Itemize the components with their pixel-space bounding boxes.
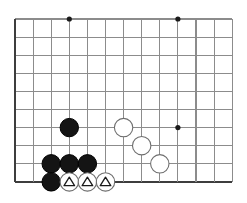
white-stone-c6-r6 <box>114 118 132 136</box>
black-stone-disc <box>42 155 60 173</box>
white-stone-disc <box>78 173 96 191</box>
white-stone-disc <box>96 173 114 191</box>
white-stone-disc <box>151 155 169 173</box>
white-stone-c8-r8 <box>151 155 169 173</box>
goban-canvas <box>0 0 247 203</box>
black-stone-c2-r9 <box>42 173 60 191</box>
black-stone-disc <box>78 155 96 173</box>
black-stone-c3-r8 <box>60 155 78 173</box>
black-stone-disc <box>42 173 60 191</box>
black-stone-c4-r8 <box>78 155 96 173</box>
white-stone-c7-r7 <box>133 137 151 155</box>
white-stone-triangle-c4-r9 <box>78 173 96 191</box>
white-stone-triangle-c5-r9 <box>96 173 114 191</box>
white-stone-disc <box>60 173 78 191</box>
star-point-bottom-right <box>175 125 180 130</box>
white-stone-triangle-c3-r9 <box>60 173 78 191</box>
star-point-top-left <box>67 16 72 21</box>
black-stone-c3-r6 <box>60 118 78 136</box>
white-stone-disc <box>114 118 132 136</box>
black-stone-disc <box>60 155 78 173</box>
black-stone-disc <box>60 118 78 136</box>
black-stone-c2-r8 <box>42 155 60 173</box>
white-stone-disc <box>133 137 151 155</box>
go-board-diagram <box>0 0 247 203</box>
star-point-top-right <box>175 16 180 21</box>
